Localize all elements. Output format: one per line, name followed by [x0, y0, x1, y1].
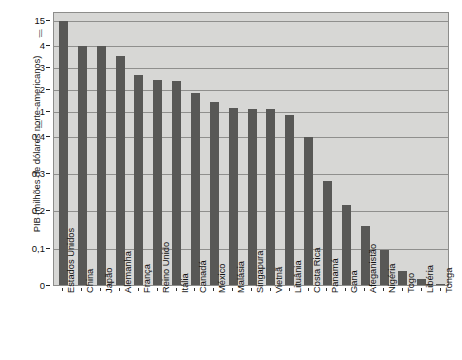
bar [210, 102, 219, 285]
x-tick-label: França [142, 264, 152, 293]
x-tick-label: Libéria [425, 265, 435, 293]
y-tick-mark [46, 20, 50, 21]
plot-area [53, 12, 449, 286]
x-tick-mark [138, 288, 139, 291]
y-tick-label: 0,2 [5, 206, 45, 215]
x-tick-label: China [85, 269, 95, 293]
x-tick-label: Estados Unidos [66, 228, 76, 293]
x-tick-label: Lituânia [293, 260, 303, 293]
x-tick-label: Gana [349, 270, 359, 293]
bar-series [54, 13, 448, 285]
x-tick-mark [157, 288, 158, 291]
x-tick-mark [81, 288, 82, 291]
x-tick-mark [440, 288, 441, 291]
x-tick-mark [270, 288, 271, 291]
y-tick-mark [46, 173, 50, 174]
bar [191, 93, 200, 285]
x-tick-mark [119, 288, 120, 291]
bar [134, 75, 143, 285]
x-tick-label: Singapura [255, 251, 265, 293]
y-tick-label: 0,3 [5, 169, 45, 178]
y-tick-mark [46, 285, 50, 286]
x-tick-mark [213, 288, 214, 291]
y-tick-mark [46, 111, 50, 112]
x-tick-label: Tonga [444, 268, 454, 293]
axis-break-icon: // [38, 27, 49, 38]
y-tick-label: 15 [5, 16, 45, 25]
x-tick-label: Reino Unido [161, 242, 171, 293]
x-tick-label: Canadá [198, 260, 208, 293]
y-tick-mark [46, 136, 50, 137]
x-tick-mark [251, 288, 252, 291]
bar-chart: PIB (milhões de dólares norte-americanos… [0, 0, 462, 360]
y-axis: 1543210,40,30,20,10//// [0, 12, 50, 286]
x-tick-label: Itália [180, 273, 190, 293]
bar [97, 46, 106, 285]
bar [266, 109, 275, 285]
y-tick-mark [46, 45, 50, 46]
x-tick-mark [326, 288, 327, 291]
y-tick-label: 2 [5, 85, 45, 94]
x-tick-label: Togo [406, 273, 416, 293]
x-tick-label: Costa Rica [312, 248, 322, 293]
x-tick-mark [402, 288, 403, 291]
x-tick-label: Japão [104, 268, 114, 293]
x-tick-mark [345, 288, 346, 291]
axis-break-icon: // [38, 118, 49, 129]
y-tick-mark [46, 248, 50, 249]
x-tick-label: Panamá [330, 258, 340, 293]
x-tick-mark [100, 288, 101, 291]
y-tick-mark [46, 89, 50, 90]
bar [172, 81, 181, 285]
x-tick-mark [364, 288, 365, 291]
x-tick-mark [232, 288, 233, 291]
y-tick-label: 3 [5, 63, 45, 72]
x-tick-label: Malásia [236, 261, 246, 293]
y-tick-label: 0,4 [5, 132, 45, 141]
x-tick-mark [62, 288, 63, 291]
x-tick-mark [194, 288, 195, 291]
y-tick-label: 1 [5, 107, 45, 116]
x-axis-labels: Estados UnidosChinaJapãoAlemanhaFrançaRe… [53, 288, 449, 360]
x-tick-label: Afeganistão [368, 244, 378, 293]
x-tick-mark [421, 288, 422, 291]
y-tick-label: 0,1 [5, 244, 45, 253]
y-tick-mark [46, 67, 50, 68]
bar [229, 108, 238, 285]
x-tick-mark [308, 288, 309, 291]
x-tick-mark [383, 288, 384, 291]
x-tick-label: México [217, 264, 227, 293]
y-tick-label: 4 [5, 41, 45, 50]
x-tick-mark [176, 288, 177, 291]
y-tick-label: 0 [5, 281, 45, 290]
x-tick-label: Vietnã [274, 267, 284, 293]
y-tick-mark [46, 210, 50, 211]
bar [78, 46, 87, 285]
x-tick-label: Alemanha [123, 251, 133, 293]
x-tick-label: Nigéria [387, 264, 397, 293]
x-tick-mark [289, 288, 290, 291]
